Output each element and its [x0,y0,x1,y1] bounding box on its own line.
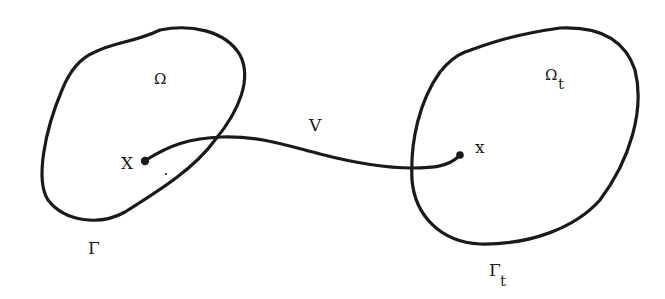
stray-dot [165,173,167,175]
boundary-gamma-t [412,28,638,244]
label-omega-t-subscript: t [558,75,564,93]
label-omega: Ω [154,70,166,88]
point-x-dot [456,151,464,159]
label-x: x [475,137,485,157]
label-gamma: Γ [88,238,100,258]
label-V: V [308,115,322,135]
boundary-gamma [42,28,245,220]
label-omega-t: Ω [545,66,557,84]
point-X-dot [141,157,149,165]
label-X: X [121,153,134,173]
diagram-canvas: Ω X Γ V x Ω t Γ t [0,0,665,299]
label-gamma-t-subscript: t [500,272,506,290]
